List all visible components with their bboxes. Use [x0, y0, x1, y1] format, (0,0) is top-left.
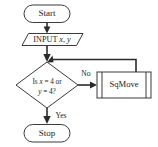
node-input[interactable]: INPUT x, y	[22, 34, 83, 46]
start-label: Start	[39, 8, 56, 18]
input-keyword: INPUT	[33, 35, 57, 44]
sqmove-label: SqMove	[109, 79, 138, 89]
decision-line2-post: = 4?	[41, 87, 55, 95]
flowchart-svg: Start INPUT x, y Is x = 4 or y = 4? SqMo…	[0, 0, 158, 147]
decision-line1-post: = 4 or	[43, 77, 63, 85]
connector-decision-to-stop	[43, 108, 50, 124]
decision-label-line1: Is x = 4 or	[32, 77, 62, 85]
node-start[interactable]: Start	[24, 5, 70, 23]
node-decision[interactable]: Is x = 4 or y = 4?	[16, 62, 78, 108]
decision-label-line2: y = 4?	[37, 87, 56, 95]
flowchart-canvas: Start INPUT x, y Is x = 4 or y = 4? SqMo…	[0, 0, 158, 147]
node-stop[interactable]: Stop	[24, 125, 70, 143]
node-sqmove[interactable]: SqMove	[97, 72, 151, 98]
connector-sqmove-loop-back	[47, 56, 136, 72]
stop-label: Stop	[39, 128, 56, 138]
input-label-group: INPUT x, y	[33, 35, 71, 44]
connector-decision-to-sqmove	[78, 81, 97, 88]
input-var-y: y	[66, 35, 71, 44]
edge-label-no: No	[81, 69, 90, 78]
connector-start-to-input	[44, 23, 51, 34]
edge-label-yes: Yes	[55, 111, 66, 120]
decision-line1-pre: Is	[32, 77, 39, 85]
